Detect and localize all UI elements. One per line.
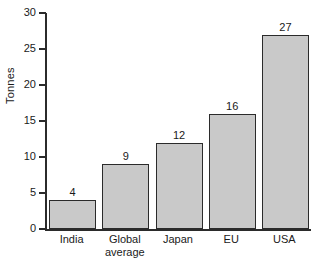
x-axis-line xyxy=(45,229,311,231)
y-axis-title: Tonnes xyxy=(4,88,16,104)
bar[interactable] xyxy=(156,143,203,229)
bar[interactable] xyxy=(102,164,149,229)
x-axis-category-label: Globalaverage xyxy=(98,233,151,259)
bar-value-label: 12 xyxy=(156,129,203,141)
x-axis-category-label: India xyxy=(45,233,98,246)
bar[interactable] xyxy=(209,114,256,229)
y-axis-tick-label: 10 xyxy=(24,151,36,162)
bar-group[interactable]: 16 xyxy=(209,13,256,229)
x-axis-category-label-line: India xyxy=(45,233,98,246)
x-axis-category-label-line: USA xyxy=(258,233,311,246)
y-axis-tick-label: 0 xyxy=(30,223,36,234)
bar-group[interactable]: 4 xyxy=(49,13,96,229)
x-axis-category-label: Japan xyxy=(151,233,204,246)
bar-value-label: 4 xyxy=(49,186,96,198)
bar-value-label: 27 xyxy=(262,21,309,33)
y-axis-tick-label: 20 xyxy=(24,79,36,90)
bar-value-label: 9 xyxy=(102,150,149,162)
bar[interactable] xyxy=(49,200,96,229)
plot-area: 49121627 xyxy=(45,13,311,229)
bar[interactable] xyxy=(262,35,309,229)
x-axis-category-label-line: Global xyxy=(98,233,151,246)
x-axis-labels: IndiaGlobalaverageJapanEUUSA xyxy=(45,233,311,269)
bar-chart: Tonnes 051015202530 49121627 IndiaGlobal… xyxy=(0,0,318,270)
x-axis-category-label: USA xyxy=(258,233,311,246)
bar-group[interactable]: 27 xyxy=(262,13,309,229)
bar-group[interactable]: 12 xyxy=(156,13,203,229)
x-axis-category-label-line: Japan xyxy=(151,233,204,246)
y-axis-tick-label: 30 xyxy=(24,7,36,18)
x-axis-category-label-line: average xyxy=(98,246,151,259)
y-axis-tick-label: 25 xyxy=(24,43,36,54)
bar-value-label: 16 xyxy=(209,100,256,112)
y-axis-tick-label: 5 xyxy=(30,187,36,198)
x-axis-category-label: EU xyxy=(205,233,258,246)
y-axis-tick-label: 15 xyxy=(24,115,36,126)
bar-group[interactable]: 9 xyxy=(102,13,149,229)
x-axis-category-label-line: EU xyxy=(205,233,258,246)
